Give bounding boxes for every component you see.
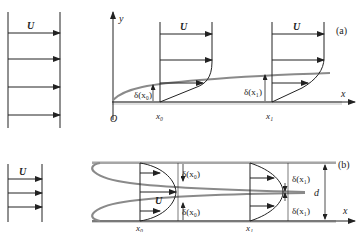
uniform-inflow-a: U xyxy=(8,12,60,128)
station-x0-label-b: x₀ xyxy=(135,223,143,232)
y-axis-label: y xyxy=(118,13,124,24)
station-x1-label-b: x₁ xyxy=(245,223,253,232)
origin-label: O xyxy=(110,113,117,124)
channel-height-dimension: d xyxy=(314,165,325,219)
delta-x0-top-label: δ(x₀) xyxy=(182,169,200,179)
flat-plate-a: y x O x₀ x₁ (a) xyxy=(110,12,355,124)
delta-x0-label-a: δ(x₀) xyxy=(134,90,152,100)
profile-x1-u-label: U xyxy=(293,21,301,32)
velocity-profile-x0-a: U δ(x₀) xyxy=(134,21,212,102)
station-x1-label-a: x₁ xyxy=(265,111,273,121)
delta-x1-label-a: δ(x₁) xyxy=(244,87,262,97)
free-stream-label-b: U xyxy=(19,166,27,177)
free-stream-label-a: U xyxy=(27,20,35,31)
panel-b-label: (b) xyxy=(338,159,350,171)
core-u-label: U xyxy=(155,195,163,206)
boundary-layer-diagram: U y x O x₀ x₁ (a) U δ(x₀) U δ(x₁) xyxy=(0,0,363,232)
x-axis-label-a: x xyxy=(340,88,346,99)
uniform-inflow-b: U xyxy=(8,164,42,222)
x-axis-label-b: x xyxy=(342,205,348,216)
channel-height-label: d xyxy=(314,187,320,198)
delta-x1-bottom-label: δ(x₁) xyxy=(292,206,310,216)
velocity-profile-x1-a: U δ(x₁) xyxy=(244,21,324,102)
delta-x0-bottom-label: δ(x₀) xyxy=(182,207,200,217)
delta-x1-top-label: δ(x₁) xyxy=(292,174,310,184)
panel-a-label: (a) xyxy=(336,25,347,37)
profile-x0-u-label: U xyxy=(180,21,188,32)
station-x0-label-a: x₀ xyxy=(155,111,163,121)
